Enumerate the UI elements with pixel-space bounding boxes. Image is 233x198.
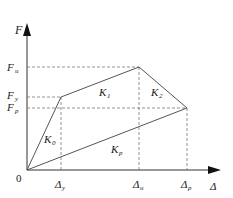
label-k2: K 2 (150, 86, 163, 100)
label-k0: K 0 (43, 133, 56, 147)
force-displacement-diagram: F Δ 0 F u F y F p Δ y Δ u Δ p K 0 K 1 K … (0, 0, 233, 198)
svg-text:y: y (14, 95, 19, 103)
svg-text:F: F (6, 101, 14, 113)
svg-text:p: p (14, 107, 19, 115)
svg-text:u: u (140, 184, 144, 192)
svg-text:F: F (6, 61, 14, 73)
svg-text:p: p (118, 149, 123, 157)
svg-text:K: K (110, 143, 119, 155)
svg-text:1: 1 (107, 92, 111, 100)
svg-text:2: 2 (159, 92, 163, 100)
svg-text:Δ: Δ (54, 178, 61, 190)
label-k1: K 1 (98, 86, 111, 100)
svg-text:0: 0 (52, 139, 56, 147)
x-axis-arrow-icon (208, 166, 221, 174)
origin-label: 0 (16, 172, 22, 184)
y-tick-fp: F p (6, 101, 19, 115)
x-axis-label: Δ (209, 180, 216, 192)
svg-text:Δ: Δ (180, 178, 187, 190)
y-tick-fu: F u (6, 61, 19, 75)
y-axis-label: F (14, 23, 23, 37)
svg-text:K: K (43, 133, 52, 145)
segment-k2 (139, 67, 187, 108)
x-tick-dp: Δ p (180, 178, 192, 192)
svg-text:y: y (61, 184, 66, 192)
svg-text:p: p (187, 184, 192, 192)
x-tick-du: Δ u (132, 178, 144, 192)
skeleton-curve (27, 67, 187, 170)
x-tick-dy: Δ y (54, 178, 66, 192)
svg-text:u: u (15, 67, 19, 75)
y-axis-arrow-icon (23, 23, 31, 36)
svg-text:Δ: Δ (132, 178, 139, 190)
label-kp: K p (110, 143, 123, 157)
svg-text:K: K (98, 86, 107, 98)
svg-text:K: K (150, 86, 159, 98)
svg-text:F: F (6, 89, 14, 101)
